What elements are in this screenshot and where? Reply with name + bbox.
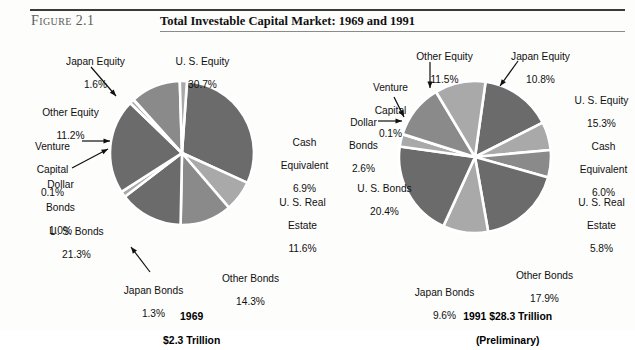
label-1991-us-bonds: U. S. Bonds 20.4% [330, 172, 422, 229]
caption-1991: 1991 $28.3 Trillion (Preliminary) [424, 299, 574, 350]
label-1969-us-bonds: U. S. Bonds 21.3% [22, 215, 114, 272]
header-rule-bottom [160, 31, 625, 32]
figure-number-label: Figure 2.1 [31, 13, 94, 29]
charts-area: Japan Equity 1.6% U. S. Equity 30.7% Oth… [0, 34, 635, 330]
pie-chart-1969 [110, 81, 254, 225]
label-1969-japan-equity: Japan Equity 1.6% [33, 45, 141, 102]
label-1991-us-real-estate: U. S. Real Estate 5.8% [553, 186, 633, 266]
caption-1969: 1969 $2.3 Trillion [135, 299, 231, 350]
label-1969-us-real-estate: U. S. Real Estate 11.6% [256, 186, 332, 266]
header-rule-top [30, 9, 625, 11]
label-1969-us-equity: U. S. Equity 30.7% [146, 45, 242, 102]
figure-title: Total Investable Capital Market: 1969 an… [160, 14, 415, 29]
